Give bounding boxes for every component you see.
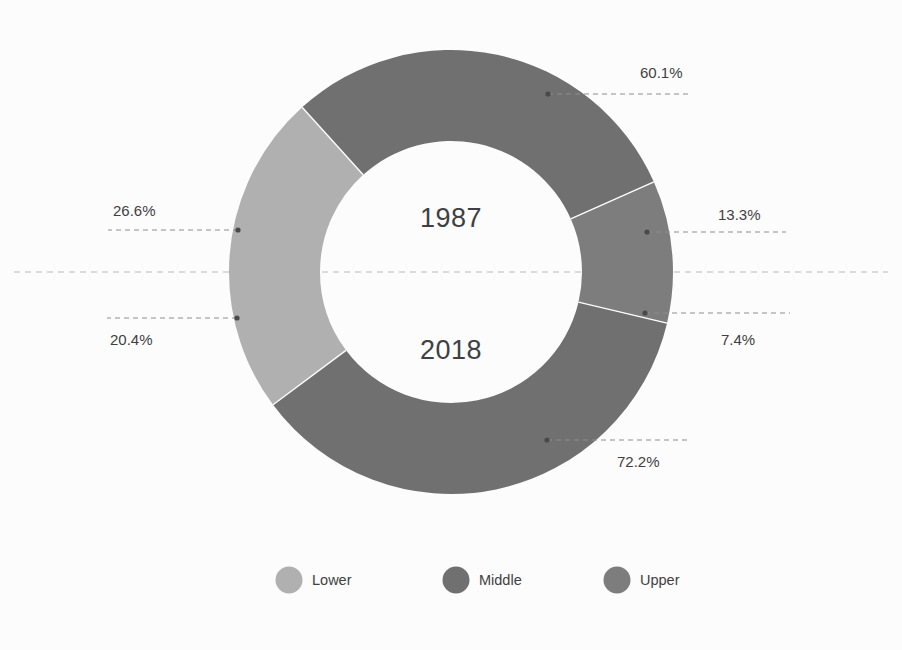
anchor-dot-1987-middle [545,91,550,96]
legend-swatch-middle [443,567,470,594]
legend-label-lower: Lower [312,572,352,588]
donut-2018 [229,272,673,494]
donut-chart-svg: 60.1% 13.3% 26.6% 20.4% 7.4% 72.2% 1987 … [0,0,902,650]
semi-donut-chart: 60.1% 13.3% 26.6% 20.4% 7.4% 72.2% 1987 … [0,0,902,650]
label-2018-upper: 7.4% [721,331,755,348]
legend-label-middle: Middle [479,572,522,588]
legend-item-upper[interactable]: Upper [604,567,680,594]
slice-1987-middle[interactable] [302,50,654,219]
anchor-dot-1987-upper [644,229,649,234]
legend-swatch-lower [276,567,303,594]
center-year-2018: 2018 [420,335,482,365]
label-1987-lower: 26.6% [113,202,156,219]
legend-item-middle[interactable]: Middle [443,567,522,594]
label-2018-lower: 20.4% [110,331,153,348]
anchor-dot-2018-middle [544,437,549,442]
label-2018-middle: 72.2% [617,453,660,470]
anchor-dot-1987-lower [235,227,240,232]
donut-1987 [229,50,673,272]
legend: Lower Middle Upper [276,567,680,594]
anchor-dot-2018-upper [642,310,647,315]
label-1987-upper: 13.3% [718,206,761,223]
label-1987-middle: 60.1% [640,64,683,81]
legend-swatch-upper [604,567,631,594]
anchor-dot-2018-lower [234,315,239,320]
center-year-1987: 1987 [420,203,482,233]
legend-item-lower[interactable]: Lower [276,567,352,594]
legend-label-upper: Upper [640,572,680,588]
